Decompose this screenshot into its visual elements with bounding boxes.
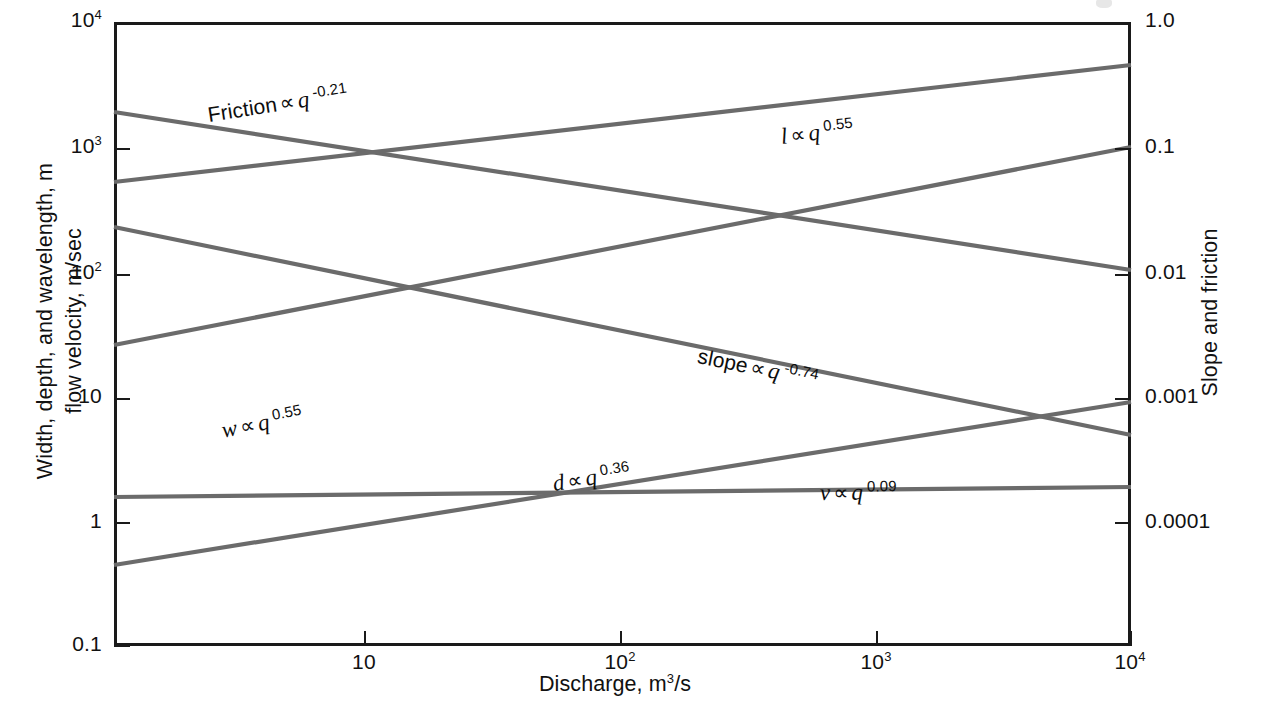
ytick-left-0.1 [114, 645, 130, 647]
annotation-velocity-var: q [851, 480, 863, 505]
x-axis-title: Discharge, m3/s [0, 672, 1230, 697]
ytick-right-1.0 [1115, 22, 1131, 24]
data-line-velocity [114, 487, 1131, 497]
ytick-right-label-0.01: 0.01 [1145, 260, 1187, 284]
annotation-velocity: v∝q0.09 [820, 479, 897, 506]
data-line-slope [114, 227, 1131, 435]
proportional-icon: ∝ [786, 122, 810, 147]
ytick-label-10000: 104 [34, 8, 102, 32]
ytick-left-1 [114, 522, 130, 524]
annotation-velocity-symbol: v [820, 480, 831, 505]
xtick-1000 [876, 631, 878, 646]
annotation-wavelength-exponent: 0.55 [822, 114, 853, 134]
ytick-right-0.0001 [1115, 522, 1131, 524]
xtick-label-100: 102 [570, 650, 670, 674]
annotation-depth-var: q [583, 464, 598, 491]
annotation-friction-exponent: -0.21 [311, 79, 348, 101]
ytick-left-1000 [114, 148, 130, 150]
xtick-label-10: 10 [314, 650, 414, 674]
annotation-depth-exponent: 0.36 [598, 457, 630, 478]
y-axis-left-title-line2: flow velocity, m/sec [60, 111, 89, 531]
xtick-10000 [1130, 631, 1132, 646]
ytick-right-label-0.001: 0.001 [1145, 384, 1199, 408]
ytick-right-0.001 [1115, 398, 1131, 400]
ytick-label-0.1: 0.1 [22, 632, 102, 656]
x-axis-title-text: Discharge, m [539, 672, 667, 696]
xtick-label-10000: 104 [1080, 650, 1180, 674]
x-axis-title-tail: /s [674, 672, 691, 696]
proportional-icon: ∝ [830, 481, 851, 504]
ytick-right-label-0.1: 0.1 [1145, 134, 1175, 158]
ytick-left-100 [114, 274, 130, 276]
ytick-left-10 [114, 398, 130, 400]
annotation-wavelength-var: q [807, 120, 821, 146]
data-line-wavelength [114, 65, 1131, 182]
ytick-right-label-0.0001: 0.0001 [1145, 509, 1210, 533]
annotation-friction-var: q [296, 86, 311, 112]
y-axis-left-title-line1: Width, depth, and wavelength, m [31, 111, 60, 531]
chart-figure: 104 103 102 10 1 0.1 1.0 0.1 0.01 0.001 … [0, 0, 1269, 712]
xtick-10 [364, 631, 366, 646]
data-lines-layer [0, 0, 1269, 712]
xtick-100 [620, 631, 622, 646]
ytick-right-label-1.0: 1.0 [1145, 8, 1175, 32]
y-axis-right-title: Slope and friction [1198, 148, 1223, 478]
xtick-label-1000: 103 [826, 650, 926, 674]
ytick-left-10000 [114, 22, 130, 24]
y-axis-left-title: Width, depth, and wavelength, m flow vel… [31, 111, 89, 531]
annotation-velocity-exponent: 0.09 [867, 477, 897, 494]
ytick-right-0.1 [1115, 148, 1131, 150]
ytick-right-0.01 [1115, 274, 1131, 276]
